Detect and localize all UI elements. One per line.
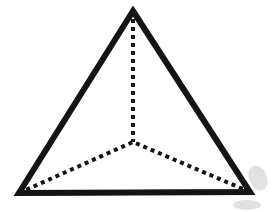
tetrahedron-figure — [0, 0, 274, 212]
scan-smudge-artifact-lower — [233, 200, 261, 210]
figure-background — [0, 0, 274, 212]
edge-base-front-solid — [19, 192, 250, 193]
tetrahedron-drawing — [0, 0, 274, 212]
